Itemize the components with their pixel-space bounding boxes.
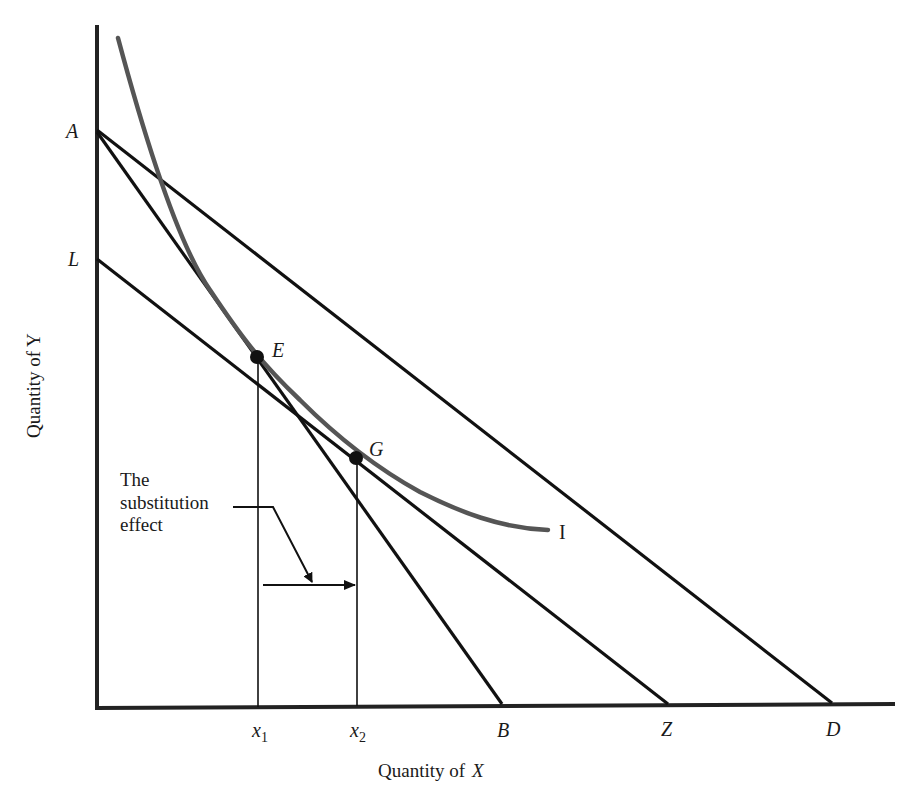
label-E: E <box>271 339 284 361</box>
substitution-effect-diagram: A L E G I B Z D x1 x2 Quantity ofX Quant… <box>0 0 915 803</box>
indifference-curve-I <box>118 38 548 530</box>
label-B: B <box>497 719 509 741</box>
tick-x1-sub: 1 <box>261 730 268 745</box>
tick-x1-base: x <box>251 719 261 741</box>
tick-label-x2: x2 <box>349 719 366 745</box>
budget-line-LZ <box>97 259 668 704</box>
label-L: L <box>67 248 79 270</box>
label-Z: Z <box>661 718 673 740</box>
label-A: A <box>64 120 79 142</box>
y-axis-label: Quantity of Y <box>23 333 44 438</box>
budget-line-AD <box>97 130 832 703</box>
label-G: G <box>369 438 384 460</box>
x-axis-label: Quantity ofX <box>378 760 485 781</box>
x-axis-label-prefix: Quantity of <box>378 760 466 781</box>
annotation-line-2: substitution <box>120 492 209 513</box>
x-axis-label-var: X <box>471 760 485 781</box>
x-axis <box>95 704 895 708</box>
annotation-leader-line <box>233 507 312 582</box>
annotation-line-1: The <box>120 469 150 490</box>
tick-x2-base: x <box>349 719 359 741</box>
label-curve-I: I <box>559 521 566 543</box>
annotation-line-3: effect <box>120 514 164 535</box>
tick-x2-sub: 2 <box>359 730 366 745</box>
point-G <box>349 451 363 465</box>
tick-label-x1: x1 <box>251 719 268 745</box>
point-E <box>250 350 264 364</box>
label-D: D <box>825 718 841 740</box>
